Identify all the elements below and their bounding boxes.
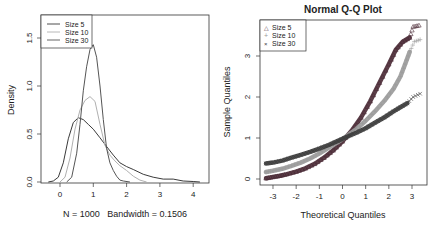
x-tick-label: 1 <box>363 192 368 201</box>
qq-y-label: Sample Quantiles <box>222 66 232 138</box>
x-tick-label: 2 <box>124 190 129 199</box>
qq-plot-title: Normal Q-Q Plot <box>304 4 382 15</box>
density-legend-label: Size 5 <box>65 21 85 28</box>
qq-legend-label: Size 5 <box>272 24 292 31</box>
x-tick-label: 3 <box>158 190 163 199</box>
density-plot: 01234 0.00.51.01.5 Density N = 1000 Band… <box>6 15 209 219</box>
qq-x-axis: -3-2-10123 <box>269 185 414 201</box>
y-tick-label: 1 <box>243 135 252 140</box>
x-tick-label: 0 <box>58 190 63 199</box>
x-tick-label: 2 <box>387 192 392 201</box>
density-x-label: N = 1000 Bandwidth = 0.1506 <box>63 209 187 219</box>
density-y-axis: 0.00.51.01.5 <box>25 32 41 188</box>
qq-legend-label: Size 10 <box>272 32 295 39</box>
x-tick-label: 0 <box>340 192 345 201</box>
density-x-axis: 01234 <box>58 183 196 199</box>
y-tick-label: 1.0 <box>25 80 34 92</box>
y-tick-label: 0.0 <box>25 176 34 188</box>
cross-marker-icon: × <box>264 41 268 47</box>
x-tick-label: -2 <box>293 192 301 201</box>
qq-x-label: Theoretical Quantiles <box>300 210 386 220</box>
density-y-label: Density <box>6 84 16 115</box>
x-tick-label: -3 <box>269 192 277 201</box>
qq-legend-label: Size 30 <box>272 40 295 47</box>
x-tick-label: 1 <box>91 190 96 199</box>
density-legend: Size 5 Size 10 Size 30 <box>41 15 92 48</box>
density-legend-label: Size 10 <box>65 29 88 36</box>
qq-series-size-30 <box>264 92 422 165</box>
y-tick-label: 1.5 <box>25 32 34 44</box>
density-curve <box>67 45 130 182</box>
triangle-marker-icon: △ <box>264 25 269 31</box>
density-legend-label: Size 30 <box>65 37 88 44</box>
density-series <box>48 45 200 182</box>
x-tick-label: 4 <box>191 190 196 199</box>
qq-y-axis: 0123 <box>243 53 260 181</box>
x-tick-label: 3 <box>410 192 415 201</box>
x-tick-label: -1 <box>316 192 324 201</box>
y-tick-label: 3 <box>243 53 252 58</box>
y-tick-label: 0 <box>243 176 252 181</box>
qq-plot: Normal Q-Q Plot -3-2-10123 0123 Sample Q… <box>222 4 427 220</box>
plus-marker-icon: + <box>264 32 268 39</box>
y-tick-label: 0.5 <box>25 128 34 140</box>
qq-legend: △ Size 5 + Size 10 × Size 30 <box>260 20 306 51</box>
y-tick-label: 2 <box>243 94 252 99</box>
figure-canvas: 01234 0.00.51.01.5 Density N = 1000 Band… <box>0 0 430 233</box>
